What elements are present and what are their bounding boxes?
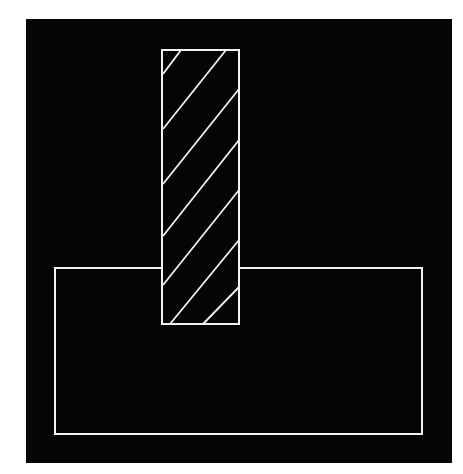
diagram-canvas [0, 0, 463, 474]
bar-fill [162, 50, 239, 324]
